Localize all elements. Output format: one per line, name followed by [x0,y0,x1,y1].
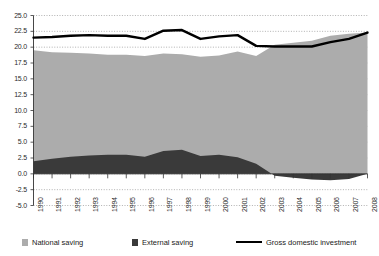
x-axis-tick-label: 1991 [55,197,63,212]
y-axis-tick-label: 7.5 [1,122,27,130]
line-series-gross-domestic-investment [34,30,368,46]
x-axis-tick-label: 2006 [333,197,341,212]
legend-item-national-saving[interactable]: National saving [22,238,83,247]
legend-item-external-saving[interactable]: External saving [132,238,193,247]
legend-item-gross-domestic-investment[interactable]: Gross domestic investment [236,238,356,247]
x-axis-tick-label: 1994 [111,197,119,212]
legend-label-external-saving: External saving [142,238,193,247]
x-axis-tick-label: 1995 [129,197,137,212]
y-axis-tick-label: 17.5 [1,59,27,67]
y-axis-tick-label: 0.0 [1,170,27,178]
y-axis-tick-label: -5.0 [1,202,27,210]
y-axis-tick-label: -2.5 [1,186,27,194]
y-axis-tick-label: 2.5 [1,154,27,162]
x-axis-tick-label: 1990 [37,197,45,212]
x-axis-tick-label: 2000 [222,197,230,212]
y-axis-tick-label: 12.5 [1,91,27,99]
legend-swatch-external-saving [132,239,138,246]
x-axis-tick-label: 2003 [278,197,286,212]
x-axis-tick-label: 1996 [148,197,156,212]
legend-label-gross-domestic-investment: Gross domestic investment [266,238,356,247]
legend-label-national-saving: National saving [32,238,83,247]
x-axis-tick-label: 1997 [166,197,174,212]
x-axis-tick-label: 1992 [74,197,82,212]
x-axis-tick-label: 2001 [241,197,249,212]
x-axis-tick-label: 1993 [92,197,100,212]
y-axis-tick-label: 20.0 [1,43,27,51]
y-axis-tick-label: 5.0 [1,138,27,146]
area-series-national-saving [34,33,368,174]
x-axis-tick-label: 2002 [259,197,267,212]
y-axis-tick-label: 15.0 [1,75,27,83]
y-axis-tick-label: 22.5 [1,27,27,35]
legend-swatch-gross-domestic-investment [236,241,262,244]
y-axis-tick-label: 25.0 [1,12,27,20]
x-axis-tick-label: 2005 [315,197,323,212]
x-axis-tick-label: 2008 [371,197,379,212]
chart-legend: National saving External saving Gross do… [0,232,375,252]
x-axis-tick-label: 2004 [296,197,304,212]
legend-swatch-national-saving [22,239,28,246]
x-axis-tick-label: 1998 [185,197,193,212]
x-axis-tick-label: 1999 [204,197,212,212]
y-axis-tick-label: 10.0 [1,107,27,115]
x-axis-tick-label: 2007 [352,197,360,212]
